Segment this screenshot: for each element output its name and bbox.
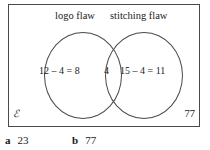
region-value-stitching-flaw-only: 15 – 4 = 11 <box>120 65 165 77</box>
venn-diagram: logo flaw stitching flaw 12 – 4 = 8 4 15… <box>0 0 210 131</box>
set-label-logo-flaw: logo flaw <box>55 10 95 22</box>
universal-set-symbol: ℰ <box>13 108 19 120</box>
answer-item-b: b77 <box>72 133 96 147</box>
answer-value-b: 77 <box>85 134 96 146</box>
region-value-logo-flaw-only: 12 – 4 = 8 <box>39 65 80 77</box>
region-value-outside-sets: 77 <box>185 108 196 120</box>
answer-label-b: b <box>72 134 78 146</box>
answer-row: a23 b77 <box>0 131 210 150</box>
set-label-stitching-flaw: stitching flaw <box>110 10 167 22</box>
answer-value-a: 23 <box>18 134 29 146</box>
answer-item-a: a23 <box>5 133 29 147</box>
region-value-intersection: 4 <box>104 65 109 77</box>
answer-label-a: a <box>5 134 11 146</box>
